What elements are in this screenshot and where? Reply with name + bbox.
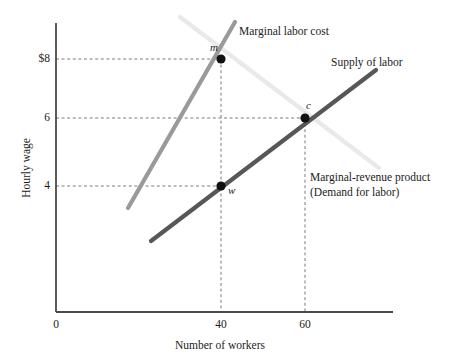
series-line-supply-of-labor (151, 70, 376, 241)
series-label-supply-of-labor: Supply of labor (331, 56, 403, 70)
series-line-marginal-labor-cost (128, 22, 235, 208)
series-label-marginal-revenue-product: Marginal-revenue product (310, 171, 430, 185)
data-point-label-c: c (306, 99, 311, 112)
series-label-marginal-labor-cost: Marginal labor cost (239, 25, 329, 39)
x-tick-label-40: 40 (205, 318, 237, 332)
y-axis-title-wrap: Hourly wage (16, 120, 36, 216)
y-tick-label-8: $8 (14, 52, 50, 66)
data-point-label-m: m (210, 41, 218, 54)
data-point-c[interactable] (300, 113, 309, 122)
data-points (216, 54, 309, 190)
labor-market-chart: $8 6 4 0 40 60 Hourly wage Number of wor… (0, 0, 450, 363)
x-axis-title: Number of workers (150, 339, 290, 353)
data-point-w[interactable] (216, 181, 225, 190)
x-tick-label-60: 60 (289, 318, 321, 332)
y-axis-title: Hourly wage (20, 138, 32, 198)
guide-lines (56, 59, 305, 312)
series-label-demand-for-labor: (Demand for labor) (310, 186, 399, 200)
data-point-m[interactable] (216, 54, 225, 63)
data-point-label-w: w (228, 184, 235, 197)
x-tick-label-0: 0 (42, 318, 70, 332)
